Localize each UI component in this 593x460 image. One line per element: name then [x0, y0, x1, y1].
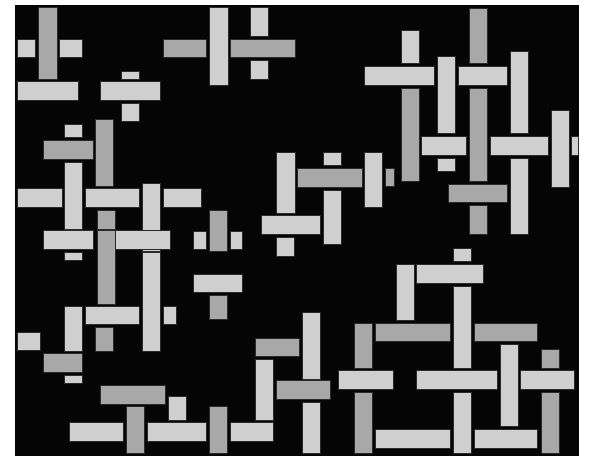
vertical-gray-bar [453, 286, 472, 369]
vertical-gray-bar [95, 327, 114, 352]
horizontal-gray-bar [85, 306, 140, 325]
vertical-gray-bar [541, 349, 560, 369]
vertical-gray-bar [401, 30, 420, 64]
horizontal-gray-bar [17, 188, 63, 208]
horizontal-gray-bar [261, 215, 321, 235]
vertical-gray-bar [230, 231, 243, 250]
horizontal-gray-bar [375, 429, 451, 449]
horizontal-gray-bar [115, 230, 171, 250]
vertical-gray-bar [64, 162, 83, 230]
horizontal-gray-bar [276, 380, 331, 400]
vertical-gray-bar [500, 344, 519, 427]
vertical-gray-bar [541, 392, 560, 454]
vertical-gray-bar [571, 136, 579, 156]
vertical-gray-bar [168, 396, 187, 421]
horizontal-gray-bar [338, 370, 394, 390]
vertical-gray-bar [510, 158, 529, 235]
vertical-gray-bar [64, 306, 83, 352]
vertical-gray-bar [323, 190, 342, 245]
vertical-gray-bar [364, 152, 383, 208]
horizontal-gray-bar [437, 158, 456, 172]
horizontal-gray-bar [474, 323, 538, 342]
horizontal-gray-bar [17, 332, 41, 351]
vertical-gray-bar [250, 60, 269, 80]
horizontal-gray-bar [69, 422, 124, 442]
vertical-gray-bar [209, 295, 228, 320]
horizontal-gray-bar [453, 248, 472, 262]
vertical-gray-bar [97, 210, 116, 230]
horizontal-gray-bar [297, 168, 363, 188]
vertical-gray-bar [453, 392, 472, 454]
vertical-gray-bar [209, 406, 228, 454]
horizontal-gray-bar [59, 39, 83, 58]
horizontal-gray-bar [448, 184, 508, 203]
horizontal-gray-bar [490, 136, 549, 156]
vertical-gray-bar [469, 8, 488, 64]
vertical-gray-bar [142, 252, 161, 352]
vertical-gray-bar [302, 312, 321, 380]
horizontal-gray-bar [421, 136, 467, 156]
vertical-gray-bar [209, 210, 228, 252]
horizontal-gray-bar [230, 39, 296, 58]
vertical-gray-bar [255, 359, 274, 421]
horizontal-gray-bar [364, 66, 435, 86]
horizontal-gray-bar [100, 81, 161, 101]
horizontal-gray-bar [163, 188, 202, 208]
vertical-gray-bar [385, 168, 395, 187]
vertical-gray-bar [193, 231, 207, 250]
horizontal-gray-bar [121, 103, 140, 122]
horizontal-gray-bar [147, 422, 207, 442]
vertical-gray-bar [510, 51, 529, 134]
horizontal-gray-bar [64, 252, 83, 261]
horizontal-gray-bar [17, 39, 36, 58]
horizontal-gray-bar [85, 188, 140, 208]
horizontal-gray-bar [100, 385, 166, 405]
horizontal-gray-bar [64, 375, 83, 384]
vertical-gray-bar [97, 230, 116, 305]
horizontal-gray-bar [255, 338, 300, 357]
horizontal-gray-bar [323, 152, 342, 166]
vertical-gray-bar [551, 110, 570, 188]
horizontal-gray-bar [17, 81, 79, 101]
horizontal-gray-bar [416, 264, 484, 284]
horizontal-gray-bar [43, 140, 94, 160]
vertical-gray-bar [276, 152, 296, 214]
horizontal-gray-bar [43, 230, 94, 250]
vertical-gray-bar [469, 205, 488, 235]
horizontal-gray-bar [121, 71, 140, 80]
vertical-gray-bar [95, 119, 114, 187]
horizontal-gray-bar [458, 66, 508, 86]
horizontal-gray-bar [64, 124, 83, 138]
horizontal-gray-bar [520, 370, 575, 390]
vertical-gray-bar [354, 323, 373, 369]
vertical-gray-bar [250, 7, 269, 37]
horizontal-gray-bar [375, 323, 451, 342]
vertical-gray-bar [437, 56, 456, 134]
horizontal-gray-bar [163, 39, 207, 58]
horizontal-gray-bar [416, 370, 498, 390]
vertical-gray-bar [38, 7, 58, 80]
vertical-gray-bar [354, 392, 373, 454]
vertical-gray-bar [396, 264, 415, 321]
horizontal-gray-bar [193, 274, 243, 293]
vertical-gray-bar [302, 402, 321, 454]
vertical-gray-bar [209, 7, 229, 86]
vertical-gray-bar [401, 88, 420, 182]
vertical-gray-bar [163, 306, 177, 325]
horizontal-gray-bar [230, 422, 274, 442]
horizontal-gray-bar [474, 429, 538, 449]
vertical-gray-bar [276, 237, 295, 257]
vertical-gray-bar [469, 88, 488, 182]
vertical-gray-bar [126, 406, 145, 454]
horizontal-gray-bar [43, 353, 83, 373]
